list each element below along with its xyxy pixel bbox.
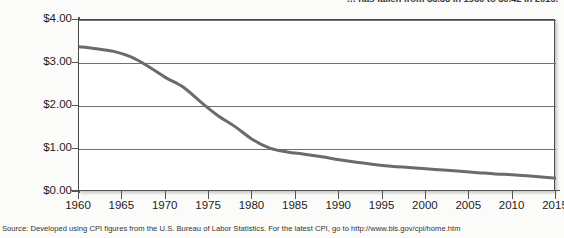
x-axis-tick-mark <box>78 191 79 199</box>
y-axis-tick-label: $4.00 <box>16 13 72 25</box>
gridlines-group <box>79 21 556 150</box>
x-axis-tick-label: 1975 <box>185 200 231 212</box>
x-axis-tick-mark <box>468 191 469 199</box>
x-axis-tick-mark <box>208 191 209 199</box>
y-axis-tick-label: $3.00 <box>16 56 72 68</box>
x-axis-tick-label: 1995 <box>359 200 405 212</box>
x-axis-tick-label: 1985 <box>272 200 318 212</box>
x-axis-tick-label: 1970 <box>142 200 188 212</box>
x-axis-tick-label: 2005 <box>445 200 491 212</box>
x-axis-tick-label: 2010 <box>489 200 535 212</box>
x-axis-tick-label: 2015 <box>532 200 564 212</box>
x-axis-tick-mark <box>295 191 296 199</box>
x-axis-tick-mark <box>555 191 556 199</box>
clipped-caption-region: … has fallen from $3.38 in 1960 to $0.42… <box>0 0 564 9</box>
clipped-caption-text: … has fallen from $3.38 in 1960 to $0.42… <box>346 0 558 4</box>
y-axis-tick-label: $1.00 <box>16 142 72 154</box>
source-note: Source: Developed using CPI figures from… <box>2 224 461 233</box>
x-axis-tick-mark <box>382 191 383 199</box>
x-axis-tick-label: 2000 <box>402 200 448 212</box>
y-axis-tick-label: $0.00 <box>16 185 72 197</box>
chart-plot-area <box>78 19 555 191</box>
line-chart-svg <box>79 20 556 192</box>
x-axis-tick-label: 1960 <box>55 200 101 212</box>
x-axis-tick-label: 1965 <box>98 200 144 212</box>
x-axis-tick-mark <box>425 191 426 199</box>
x-axis-tick-mark <box>165 191 166 199</box>
x-axis-tick-mark <box>121 191 122 199</box>
x-axis-line <box>70 190 560 191</box>
y-axis-tick-label: $2.00 <box>16 99 72 111</box>
x-axis-tick-mark <box>338 191 339 199</box>
x-axis-tick-mark <box>512 191 513 199</box>
x-axis-tick-mark <box>251 191 252 199</box>
x-axis-tick-label: 1990 <box>315 200 361 212</box>
data-series-line <box>79 47 556 179</box>
x-axis-tick-label: 1980 <box>228 200 274 212</box>
